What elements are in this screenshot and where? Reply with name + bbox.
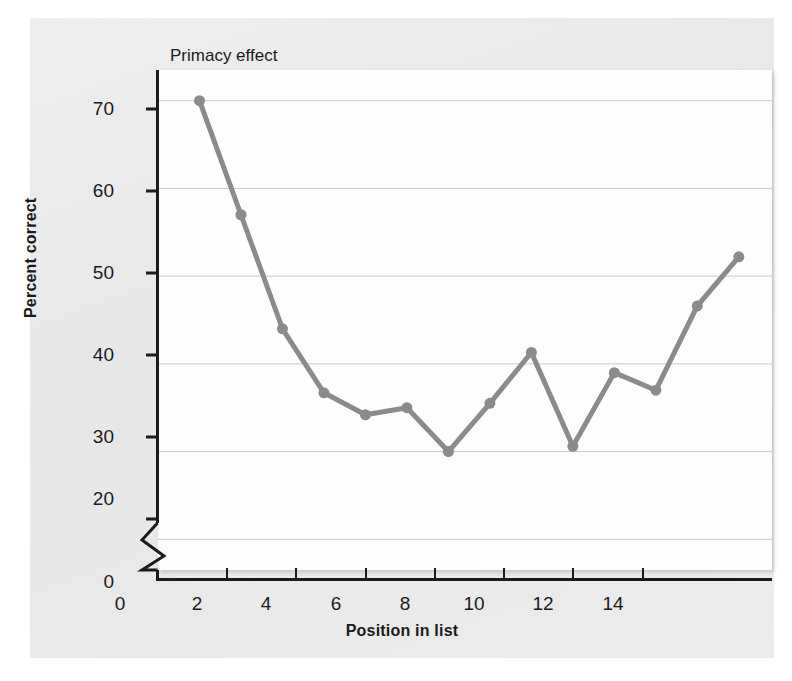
x-axis-title: Position in list <box>30 622 774 640</box>
y-tick-label-50: 50 <box>58 262 114 284</box>
data-point-2 <box>235 209 246 220</box>
x-tick-label-2: 2 <box>177 593 217 615</box>
data-point-7 <box>443 446 454 457</box>
data-point-9 <box>526 347 537 358</box>
data-point-1 <box>194 95 205 106</box>
data-point-10 <box>567 441 578 452</box>
y-axis-title: Percent correct <box>22 198 40 318</box>
x-tick-label-0: 0 <box>100 593 140 615</box>
data-point-4 <box>318 387 329 398</box>
data-point-6 <box>401 402 412 413</box>
y-tick-label-20: 20 <box>58 488 114 510</box>
x-tick-label-6: 6 <box>316 593 356 615</box>
data-point-13 <box>692 300 703 311</box>
data-point-14 <box>733 251 744 262</box>
serial-position-curve-svg <box>158 70 772 570</box>
data-point-3 <box>277 323 288 334</box>
y-tick-label-60: 60 <box>58 180 114 202</box>
gridlines-group <box>158 101 772 540</box>
y-tick-label-30: 30 <box>58 426 114 448</box>
y-tick-label-70: 70 <box>58 98 114 120</box>
x-tick-label-8: 8 <box>385 593 425 615</box>
data-point-11 <box>609 367 620 378</box>
x-tick-label-12: 12 <box>523 593 563 615</box>
annotation-primacy-effect: Primacy effect <box>170 46 277 66</box>
y-tick-label-40: 40 <box>58 344 114 366</box>
data-point-8 <box>484 398 495 409</box>
x-tick-label-14: 14 <box>593 593 633 615</box>
x-tick-label-4: 4 <box>246 593 286 615</box>
figure-paper-panel: Percent correct 70 60 50 40 30 20 0 0 2 … <box>30 18 774 658</box>
data-point-5 <box>360 409 371 420</box>
y-origin-label: 0 <box>58 571 114 593</box>
data-point-12 <box>650 385 661 396</box>
plot-area <box>158 70 772 570</box>
figure-container: Percent correct 70 60 50 40 30 20 0 0 2 … <box>0 0 792 681</box>
x-tick-label-10: 10 <box>454 593 494 615</box>
y-axis-ticks <box>146 109 158 519</box>
